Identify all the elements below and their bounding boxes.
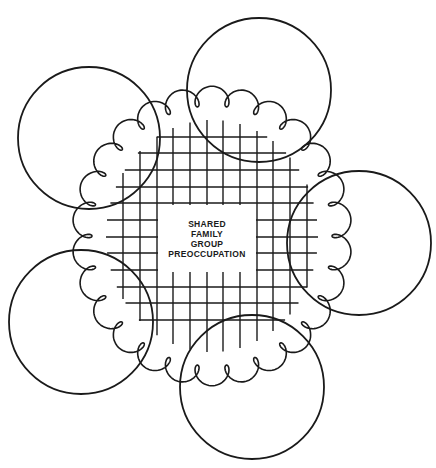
- center-label-line-1: SHARED: [188, 219, 226, 229]
- member-circle-bottom-left: [9, 250, 153, 394]
- center-label-line-2: FAMILY: [191, 229, 223, 239]
- member-circle-bottom: [180, 315, 324, 459]
- member-circle-top-right: [187, 18, 331, 162]
- member-circle-right: [287, 171, 431, 315]
- center-label: SHARED FAMILY GROUP PREOCCUPATION: [158, 205, 256, 272]
- center-label-line-3: GROUP: [191, 239, 224, 249]
- member-circle-top-left: [18, 67, 160, 209]
- center-label-line-4: PREOCCUPATION: [168, 249, 245, 259]
